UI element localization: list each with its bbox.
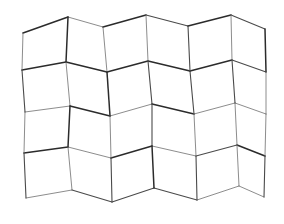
mesh-faces-group (22, 15, 266, 202)
mesh-diagram (0, 0, 284, 224)
mesh-cell (22, 62, 70, 112)
mesh-cell (24, 147, 72, 198)
mesh-edge-vertical (265, 29, 266, 72)
figure-canvas (0, 0, 284, 224)
mesh-cell (24, 106, 70, 153)
